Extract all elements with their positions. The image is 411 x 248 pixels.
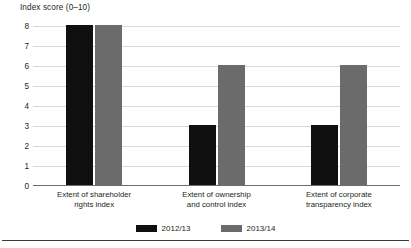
bar <box>189 125 216 185</box>
y-axis-tick-label: 8 <box>5 22 29 31</box>
x-axis-category-label: Extent of corporatetransparency index <box>278 190 400 209</box>
bar-series-container <box>33 26 400 186</box>
y-axis-tick-label: 3 <box>5 122 29 131</box>
bar-chart: Index score (0–10) 012345678 Extent of s… <box>0 0 411 248</box>
y-axis-tick-label: 2 <box>5 142 29 151</box>
bar <box>311 125 338 185</box>
y-axis-tick-label: 4 <box>5 102 29 111</box>
bar <box>218 65 245 185</box>
legend-item[interactable]: 2012/13 <box>136 224 191 233</box>
x-axis-category-label: Extent of ownershipand control index <box>155 190 277 209</box>
x-axis-category-label-line: Extent of corporate <box>278 190 400 200</box>
plot-area <box>33 26 400 186</box>
x-axis-category-label: Extent of shareholderrights index <box>33 190 155 209</box>
legend-swatch-icon <box>221 225 242 232</box>
legend-swatch-icon <box>136 225 157 232</box>
y-axis-tick-label: 0 <box>5 182 29 191</box>
x-axis-category-label-line: Extent of shareholder <box>33 190 155 200</box>
y-axis-tick-label: 5 <box>5 82 29 91</box>
bottom-divider <box>2 240 409 241</box>
bar <box>340 65 367 185</box>
x-axis-category-label-line: transparency index <box>278 200 400 210</box>
chart-legend: 2012/132013/14 <box>0 224 411 233</box>
x-axis-category-label-line: and control index <box>155 200 277 210</box>
y-axis-ticks: 012345678 <box>0 26 29 186</box>
x-axis-category-label-line: Extent of ownership <box>155 190 277 200</box>
legend-label: 2013/14 <box>247 224 276 233</box>
y-axis-tick-label: 6 <box>5 62 29 71</box>
bar <box>95 25 122 185</box>
y-axis-tick-label: 7 <box>5 42 29 51</box>
y-axis-tick-label: 1 <box>5 162 29 171</box>
x-axis-category-labels: Extent of shareholderrights indexExtent … <box>33 190 400 216</box>
legend-label: 2012/13 <box>162 224 191 233</box>
bar <box>66 25 93 185</box>
y-axis-title: Index score (0–10) <box>20 3 90 12</box>
x-axis-category-label-line: rights index <box>33 200 155 210</box>
legend-item[interactable]: 2013/14 <box>221 224 276 233</box>
